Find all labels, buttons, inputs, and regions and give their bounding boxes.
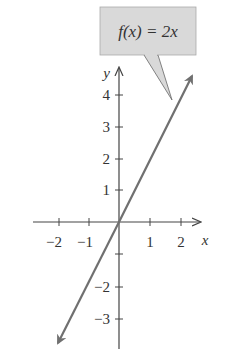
- y-axis-label: y: [101, 65, 110, 81]
- x-axis-label: x: [201, 232, 209, 248]
- y-tick-labels: 4 3 2 1 −2 −3 y: [94, 65, 110, 327]
- callout-label: f(x) = 2x: [118, 22, 178, 41]
- svg-text:−2: −2: [46, 234, 62, 250]
- x-tick-labels: −2 −1 1 2 x: [46, 232, 209, 250]
- svg-text:−1: −1: [77, 234, 93, 250]
- svg-text:2: 2: [103, 151, 111, 167]
- svg-text:3: 3: [103, 119, 111, 135]
- svg-text:4: 4: [103, 87, 111, 103]
- function-graph: f(x) = 2x −2 −1 1 2 x 4 3 2 1 −2 −3 y: [0, 0, 227, 349]
- function-line: [119, 76, 192, 222]
- callout-box: f(x) = 2x: [100, 7, 196, 100]
- svg-text:2: 2: [177, 234, 185, 250]
- svg-text:1: 1: [146, 234, 154, 250]
- svg-text:−2: −2: [94, 279, 110, 295]
- svg-text:−3: −3: [94, 311, 110, 327]
- svg-text:1: 1: [103, 182, 111, 198]
